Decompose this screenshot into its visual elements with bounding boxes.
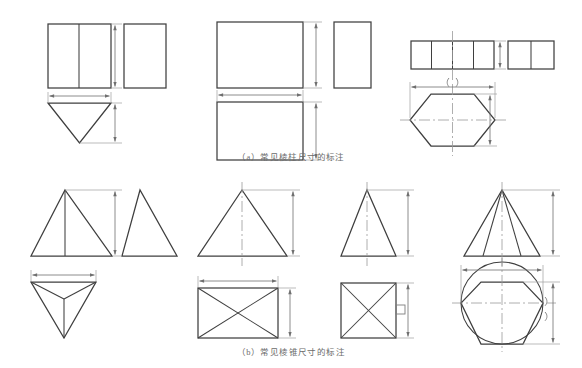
drawing-sheet: .ol { fill:none; stroke:#3f3f3f; stroke-…: [0, 0, 582, 368]
dimension-triangular-prism-width: [48, 92, 111, 103]
shape-rectangular-prism-front-view: [217, 22, 303, 88]
dimension-hexagonal-pyramid-height: [502, 190, 560, 256]
shape-triangular-prism-top-view: [48, 103, 111, 143]
dimension-triangular-prism-height: [111, 24, 122, 88]
shape-hexagonal-pyramid-front-view: [464, 182, 540, 266]
dimension-rectangular-pyramid-depth: [278, 288, 296, 338]
annotation-square-pyramid-square-symbol: [396, 305, 405, 314]
shape-triangular-prism-side-view: [124, 24, 166, 88]
dimension-triangular-pyramid-width: [31, 270, 96, 282]
dimension-rectangular-pyramid-width: [198, 276, 278, 288]
dimension-hexagonal-prism-height: [494, 41, 506, 69]
caption-panel-b: （b）常见棱锥尺寸的标注: [0, 345, 582, 357]
shape-rectangular-pyramid-front-view: [198, 182, 287, 266]
shape-hexagonal-prism-front-view: [411, 31, 494, 80]
dimension-rectangular-pyramid-height: [242, 190, 300, 256]
shape-rectangular-prism-side-view: [334, 22, 371, 88]
shape-hexagonal-prism-side-view: [508, 41, 554, 69]
shape-square-pyramid-top-view: [341, 283, 396, 338]
shape-triangular-pyramid-top-view: [31, 282, 96, 338]
dimension-rectangular-prism-height: [303, 22, 322, 88]
dimension-square-pyramid-height: [367, 190, 414, 256]
annotation-hexagonal-pyramid-symbol: [545, 297, 547, 321]
dimension-triangular-pyramid-height: [65, 190, 122, 256]
caption-panel-a: （a）常见棱柱尺寸的标注: [0, 150, 582, 162]
shape-triangular-prism-front-view: [48, 24, 111, 88]
shape-rectangular-pyramid-top-view: [198, 288, 278, 338]
dimension-triangular-prism-depth: [80, 103, 123, 143]
shape-triangular-pyramid-front-view: [31, 190, 112, 256]
dimension-rectangular-prism-width: [217, 90, 303, 102]
shape-triangular-pyramid-side-view: [122, 190, 177, 256]
shape-square-pyramid-front-view: [341, 182, 396, 266]
